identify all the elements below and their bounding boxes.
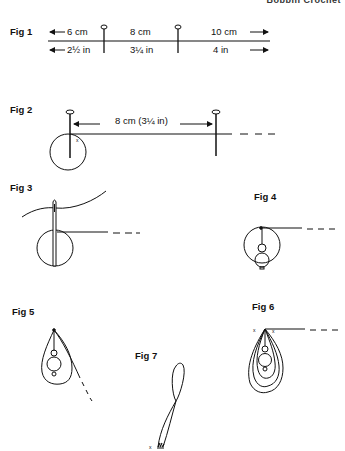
fig6-drawing	[249, 329, 338, 393]
pin-icon	[175, 25, 181, 53]
diagram-page: Bobbin Crochet Fig 1 Fig 2 Fig 3 Fig 4 F…	[0, 0, 345, 451]
small-ring	[258, 244, 266, 252]
fig5-thread	[54, 330, 80, 378]
figure-eight-bottom-strands	[158, 401, 176, 447]
pin-icon	[101, 25, 107, 53]
small-ring	[262, 346, 268, 352]
medium-ring	[47, 357, 61, 371]
fig3-drawing	[22, 191, 140, 266]
pin-icon	[212, 110, 220, 156]
figure-eight-top-loop	[172, 363, 184, 401]
small-ring	[52, 372, 56, 376]
needle-icon	[53, 200, 56, 266]
fig1-drawing	[48, 25, 270, 53]
fig7-x-mark: x	[149, 444, 152, 450]
fig5-drawing	[42, 329, 92, 401]
fig6-x-mark-left: x	[253, 327, 256, 333]
medium-ring	[255, 253, 269, 267]
knot-dot	[260, 227, 263, 230]
fig2-drawing	[50, 110, 275, 170]
fig3-curved-thread	[22, 191, 106, 217]
small-ring	[263, 367, 267, 371]
diagram-drawing: x	[0, 0, 345, 451]
fig7-drawing	[157, 363, 184, 448]
bobbin-ring	[50, 134, 86, 170]
medium-ring	[259, 354, 272, 367]
fig4-drawing	[244, 227, 335, 269]
